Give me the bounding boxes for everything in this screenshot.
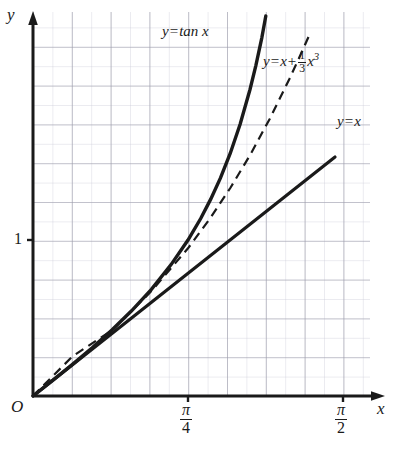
x-axis-label: x — [377, 400, 385, 417]
x-tick-label-pi-over-4: π 4 — [180, 402, 192, 437]
y-tick-label-1: 1 — [14, 231, 22, 247]
origin-label: O — [11, 398, 23, 415]
chart-figure: y x O 1 π 4 π 2 y=tan x y=x+13x3 y=x — [0, 0, 400, 451]
label-rhs: tan x — [179, 23, 209, 39]
fraction-denominator: 4 — [180, 419, 192, 437]
fraction-denominator: 3 — [298, 62, 306, 75]
fraction-denominator: 2 — [335, 419, 347, 437]
grid-layer — [33, 12, 370, 396]
fraction-numerator: 1 — [298, 50, 306, 62]
curve-label-tangent: y=tan x — [162, 24, 209, 39]
label-lhs: y — [162, 23, 169, 39]
label-cubic-base: x — [307, 53, 314, 69]
curve-label-linear: y=x — [337, 114, 361, 129]
label-equals: = — [344, 113, 354, 129]
label-lhs: y — [263, 53, 270, 69]
fraction-pi-over-2: π 2 — [335, 402, 347, 437]
label-cubic-exponent: 3 — [314, 50, 319, 62]
label-equals: = — [169, 23, 179, 39]
y-axis-label: y — [7, 6, 15, 23]
label-plus: + — [287, 53, 297, 69]
x-tick-label-pi-over-2: π 2 — [335, 402, 347, 437]
label-rhs: x — [354, 113, 361, 129]
fraction-numerator: π — [335, 402, 347, 419]
label-x-term: x — [280, 53, 287, 69]
chart-canvas — [0, 0, 400, 451]
fraction-one-third: 13 — [298, 50, 306, 74]
label-lhs: y — [337, 113, 344, 129]
major-gridlines — [33, 12, 370, 396]
curve-label-cubic: y=x+13x3 — [263, 50, 319, 74]
label-equals: = — [270, 53, 280, 69]
fraction-numerator: π — [180, 402, 192, 419]
fraction-pi-over-4: π 4 — [180, 402, 192, 437]
